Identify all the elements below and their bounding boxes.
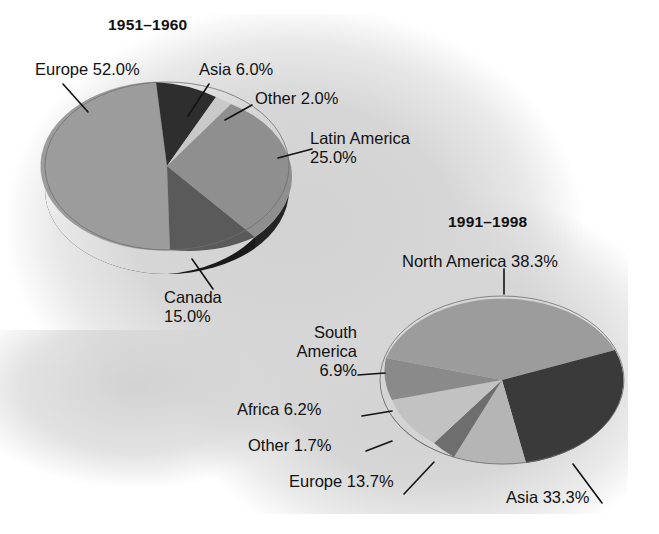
chart1-label-latin-america-line1: Latin America — [310, 129, 410, 147]
chart2-label-other: Other 1.7% — [248, 436, 331, 455]
chart1-slice-europe — [41, 82, 170, 250]
chart1-pie — [0, 0, 340, 300]
chart1-label-latin-america-line2: 25.0% — [310, 148, 357, 166]
chart2-leader-europe — [404, 462, 434, 494]
chart2-pie — [330, 250, 659, 534]
chart2-label-south-america-line3: 6.9% — [319, 361, 357, 379]
chart2-label-asia: Asia 33.3% — [506, 488, 589, 507]
chart2-title: 1991–1998 — [448, 213, 527, 231]
chart2-leader-south-america — [358, 373, 385, 375]
chart2-pie-svg — [330, 250, 659, 534]
chart2-leader-other — [366, 441, 392, 451]
chart1-label-canada-line2: 15.0% — [164, 307, 211, 325]
chart1-pie-svg — [0, 0, 340, 300]
chart2-top-face — [380, 296, 624, 464]
chart1-label-europe: Europe 52.0% — [35, 60, 140, 79]
chart-page: 1951–1960 — [0, 0, 659, 534]
chart2-label-africa: Africa 6.2% — [237, 400, 321, 419]
chart2-label-europe: Europe 13.7% — [289, 472, 394, 491]
chart2-label-south-america: South America 6.9% — [285, 323, 357, 379]
chart2-label-north-america: North America 38.3% — [402, 252, 558, 271]
chart1-label-latin-america: Latin America 25.0% — [310, 129, 410, 167]
chart1-leader-canada — [192, 259, 213, 289]
chart2-label-south-america-line2: America — [296, 342, 357, 360]
chart1-label-canada: Canada 15.0% — [164, 288, 222, 326]
chart1-label-other: Other 2.0% — [255, 89, 338, 108]
chart2-label-south-america-line1: South — [314, 323, 357, 341]
chart1-label-canada-line1: Canada — [164, 288, 222, 306]
chart1-label-asia: Asia 6.0% — [199, 60, 273, 79]
chart2-leader-africa — [362, 411, 392, 416]
